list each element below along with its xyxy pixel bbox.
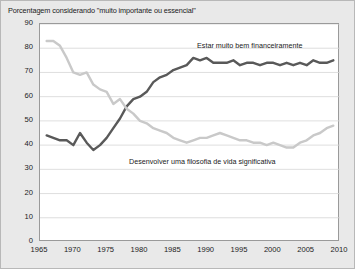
y-tick-label: 90 xyxy=(3,18,33,27)
y-tick-label: 30 xyxy=(3,163,33,172)
chart-svg xyxy=(40,24,340,242)
chart-container: Porcentagem considerando "muito importan… xyxy=(0,0,355,269)
x-tick-label: 2000 xyxy=(254,245,290,254)
y-tick-label: 20 xyxy=(3,188,33,197)
series-label-financeiramente: Estar muito bem financeiramente xyxy=(197,41,302,50)
y-tick-label: 60 xyxy=(3,91,33,100)
chart-title: Porcentagem considerando "muito importan… xyxy=(8,6,196,15)
x-tick-label: 1965 xyxy=(21,245,57,254)
x-tick-label: 2010 xyxy=(321,245,355,254)
y-tick-label: 80 xyxy=(3,42,33,51)
y-tick-label: 40 xyxy=(3,139,33,148)
x-tick-label: 1990 xyxy=(188,245,224,254)
x-tick-label: 1970 xyxy=(54,245,90,254)
series-label-filosofia: Desenvolver uma filosofia de vida signif… xyxy=(129,157,276,166)
series-line-0 xyxy=(47,58,334,150)
y-tick-label: 70 xyxy=(3,66,33,75)
y-tick-label: 50 xyxy=(3,115,33,124)
series-lines xyxy=(47,41,334,150)
x-tick-label: 1985 xyxy=(154,245,190,254)
y-tick-label: 0 xyxy=(3,236,33,245)
x-tick-label: 1975 xyxy=(88,245,124,254)
gridlines xyxy=(40,24,340,218)
x-tick-label: 2005 xyxy=(288,245,324,254)
y-tick-label: 10 xyxy=(3,212,33,221)
series-line-1 xyxy=(47,41,334,148)
x-tick-label: 1980 xyxy=(121,245,157,254)
plot-area xyxy=(39,23,339,241)
x-tick-label: 1995 xyxy=(221,245,257,254)
